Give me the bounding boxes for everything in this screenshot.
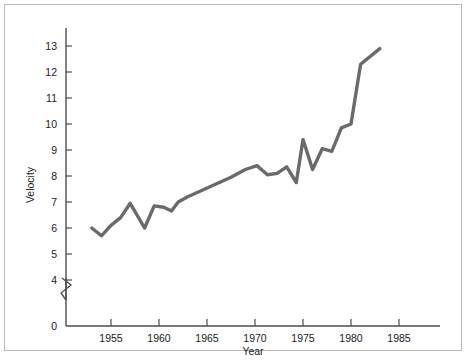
x-tick-label: 1965 [195, 332, 219, 344]
y-tick-label: 8 [51, 170, 57, 182]
y-tick-label: 9 [51, 144, 57, 156]
x-tick-label: 1980 [339, 332, 363, 344]
y-tick-labels: 045678910111213 [45, 40, 57, 332]
x-tick-label: 1970 [243, 332, 267, 344]
y-tick-label: 6 [51, 222, 57, 234]
y-axis-title: Velocity [24, 166, 36, 203]
x-tick-label: 1975 [291, 332, 315, 344]
x-tick-label: 1955 [99, 332, 123, 344]
y-tick-label: 10 [45, 118, 57, 130]
x-tick-marks [111, 319, 399, 326]
y-tick-label: 12 [45, 66, 57, 78]
x-tick-labels: 1955196019651970197519801985 [99, 332, 411, 344]
y-tick-label: 4 [51, 274, 57, 286]
data-line-velocity [92, 49, 380, 236]
x-tick-label: 1960 [147, 332, 171, 344]
y-tick-label: 13 [45, 40, 57, 52]
line-chart: 045678910111213 195519601965197019751980… [0, 0, 468, 361]
data-series-group [92, 49, 380, 236]
y-tick-label: 11 [46, 92, 57, 104]
x-tick-label: 1985 [387, 332, 411, 344]
x-axis-title: Year [242, 345, 264, 357]
y-tick-label: 7 [51, 196, 57, 208]
y-tick-label: 0 [51, 320, 57, 332]
y-tick-marks [66, 46, 72, 280]
y-tick-label: 5 [51, 248, 57, 260]
chart-figure: 045678910111213 195519601965197019751980… [0, 0, 468, 361]
y-axis-group [61, 28, 71, 326]
